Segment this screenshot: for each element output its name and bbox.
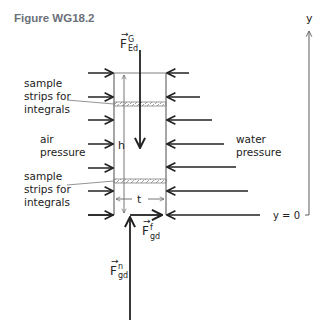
sample-strips-label-top: sample strips for integrals — [24, 77, 71, 116]
diagram-canvas: F → G Ed F → f gd F → n gd h t y y = 0 — [0, 0, 329, 332]
label-line: integrals — [24, 103, 71, 116]
y-axis — [305, 31, 309, 215]
svg-text:G: G — [128, 35, 134, 44]
leader-line-top — [67, 100, 114, 104]
label-line: pressure — [236, 146, 281, 159]
label-line: integrals — [24, 196, 71, 209]
friction-force-label: F → f gd — [142, 216, 160, 241]
sample-strips-label-bottom: sample strips for integrals — [24, 170, 71, 209]
thickness-label: t — [137, 193, 142, 206]
label-line: strips for — [24, 183, 71, 196]
label-line: water — [236, 133, 281, 146]
svg-text:Ed: Ed — [128, 44, 138, 53]
gravity-force-label: F → G Ed — [120, 29, 138, 53]
svg-text:F: F — [120, 37, 127, 51]
svg-text:gd: gd — [118, 271, 128, 280]
air-pressure-label: air pressure — [40, 133, 85, 159]
label-line: air — [40, 133, 85, 146]
label-line: strips for — [24, 90, 71, 103]
svg-text:F: F — [110, 264, 117, 278]
label-line: pressure — [40, 146, 85, 159]
y-axis-label: y — [306, 12, 313, 25]
normal-force-label: F → n gd — [110, 256, 128, 280]
water-pressure-label: water pressure — [236, 133, 281, 159]
svg-text:n: n — [118, 262, 123, 271]
air-pressure-arrows — [88, 73, 113, 215]
figure-wg18-2: Figure WG18.2 — [0, 0, 329, 332]
label-line: sample — [24, 170, 71, 183]
height-label: h — [118, 139, 125, 152]
sample-strip-bottom — [114, 179, 166, 183]
label-line: sample — [24, 77, 71, 90]
y-zero-label: y = 0 — [273, 210, 300, 221]
leader-line-bottom — [67, 181, 114, 185]
svg-text:gd: gd — [150, 232, 160, 241]
svg-text:f: f — [150, 223, 153, 232]
svg-text:F: F — [142, 224, 149, 238]
